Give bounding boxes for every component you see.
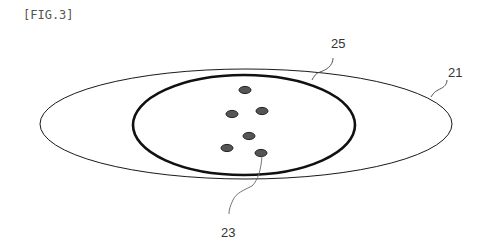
reference-numeral-25: 25 — [331, 37, 345, 50]
reference-numeral-23: 23 — [221, 226, 235, 239]
leader-line-25 — [312, 58, 333, 80]
dot-23 — [256, 107, 268, 114]
dot-23 — [226, 110, 238, 117]
leader-line-21 — [431, 80, 447, 97]
dot-23 — [255, 149, 267, 156]
reference-numeral-21: 21 — [448, 66, 462, 79]
patent-drawing — [0, 0, 501, 250]
outer-ellipse-21 — [40, 69, 452, 179]
leader-line-23 — [229, 156, 262, 214]
dot-23 — [243, 132, 255, 139]
dots-group-23 — [221, 86, 268, 156]
dot-23 — [239, 86, 251, 93]
dot-23 — [221, 144, 233, 151]
